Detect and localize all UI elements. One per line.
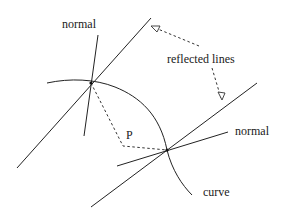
label-reflected-lines: reflected lines (167, 52, 235, 66)
annotation-arrow-top (153, 27, 199, 46)
label-point-p: P (126, 128, 133, 142)
arrowhead-bottom (218, 92, 225, 100)
reflected-line-top (17, 18, 151, 168)
curve (47, 80, 192, 195)
label-normal-right: normal (235, 124, 270, 138)
reflected-line-bottom (91, 83, 257, 207)
normal-line-right (117, 132, 228, 166)
intersection-point-top (89, 81, 92, 84)
label-curve: curve (203, 185, 230, 199)
arrowhead-top (151, 26, 160, 32)
reflection-diagram: normal reflected lines P normal curve (0, 0, 284, 216)
intersection-point-bottom (165, 148, 168, 151)
label-normal-top: normal (62, 17, 97, 31)
